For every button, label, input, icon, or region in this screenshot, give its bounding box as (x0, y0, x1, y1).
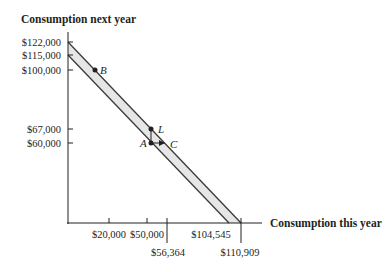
x-label-20000: $20,000 (92, 229, 126, 240)
point-c-label: C (170, 138, 178, 150)
x-label-50000: $50,000 (130, 229, 164, 240)
point-a (149, 141, 154, 146)
point-l-label: L (157, 123, 164, 135)
y-label-115000: $115,000 (22, 50, 61, 61)
y-label-60000: $60,000 (27, 138, 61, 149)
x-label-104545: $104,545 (191, 229, 230, 240)
lower-budget-line (68, 55, 229, 223)
x-label-110909: $110,909 (221, 247, 260, 258)
y-label-122000: $122,000 (22, 37, 61, 48)
point-l (149, 127, 154, 132)
point-a-label: A (139, 137, 147, 149)
point-b (93, 68, 98, 73)
point-b-label: B (100, 64, 107, 76)
y-label-67000: $67,000 (27, 124, 61, 135)
x-axis-title: Consumption this year (270, 217, 382, 230)
intertemporal-budget-diagram: Consumption next year $122,000 $115,000 … (0, 0, 390, 272)
x-label-56364: $56,364 (151, 247, 186, 258)
y-label-100000: $100,000 (22, 65, 61, 76)
y-axis-title: Consumption next year (21, 13, 136, 26)
